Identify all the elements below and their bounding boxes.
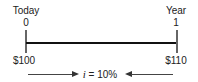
start-label: Today [13,5,40,16]
end-period: 1 [173,17,179,28]
interest-rate-label: i = 10% [83,69,117,80]
right-arrow-shaft [131,74,173,75]
end-amount: $110 [165,55,187,66]
right-arrowhead-icon [72,71,79,77]
start-amount: $100 [13,55,35,66]
start-period: 0 [23,17,29,28]
timeline-line [26,42,177,44]
end-label: Year [166,5,186,16]
left-arrow-shaft [28,74,73,75]
end-tick [176,30,178,53]
